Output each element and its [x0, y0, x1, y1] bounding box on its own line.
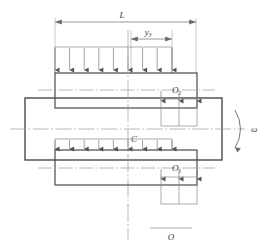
dimension-label-L: L [118, 10, 124, 20]
centerline-O1-group: O1 [38, 163, 215, 174]
bearing-label-O2: O2 [172, 85, 182, 96]
dimension-group-y3: y3 [131, 27, 172, 74]
origin-label-O: O [168, 232, 175, 242]
mechanical-diagram: L y3 O2 [0, 0, 272, 246]
bearing-label-O1: O1 [172, 163, 182, 174]
angular-velocity-label: ω [251, 124, 257, 134]
origin-reference: O [150, 228, 192, 242]
dimension-group-L: L [55, 10, 196, 74]
dimension-label-y3: y3 [144, 27, 152, 38]
diagram-canvas: L y3 O2 [0, 0, 272, 246]
bearing-load-bottom [161, 169, 197, 204]
dimension-label-y3-sub: 3 [148, 32, 152, 38]
distributed-load-top [55, 47, 172, 73]
centerline-O2-group: O2 [38, 85, 215, 96]
distributed-load-bottom [55, 139, 172, 150]
